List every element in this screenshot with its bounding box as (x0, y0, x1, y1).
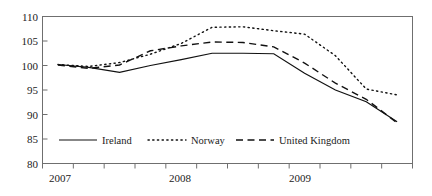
x-axis-label-2007: 2007 (49, 172, 72, 184)
x-axis-label-2008: 2008 (169, 172, 192, 184)
legend-label-ireland: Ireland (102, 135, 132, 146)
y-axis-label-90: 90 (27, 109, 39, 121)
y-axis-label-80: 80 (27, 158, 39, 170)
y-axis-label-95: 95 (27, 84, 39, 96)
legend-label-united-kingdom: United Kingdom (279, 135, 350, 146)
y-axis-label-100: 100 (22, 60, 39, 72)
y-axis-label-110: 110 (22, 11, 39, 23)
chart-background (0, 0, 432, 196)
line-chart: 110 105 100 95 90 85 80 2007 2008 2009 I… (0, 0, 432, 196)
x-axis-label-2009: 2009 (289, 172, 312, 184)
legend-label-norway: Norway (191, 135, 226, 146)
y-axis-label-85: 85 (27, 133, 39, 145)
chart-legend: Ireland Norway United Kingdom (59, 135, 350, 146)
y-axis-label-105: 105 (22, 35, 39, 47)
chart-canvas: 110 105 100 95 90 85 80 2007 2008 2009 I… (0, 0, 432, 196)
